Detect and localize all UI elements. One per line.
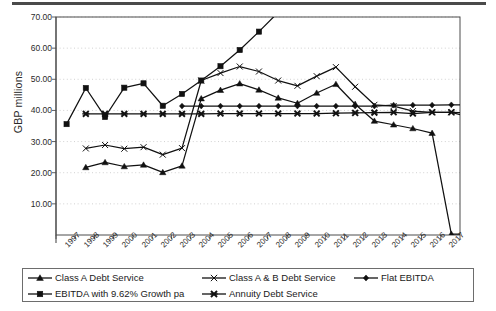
- x-axis-tick-label: 1999: [101, 230, 120, 249]
- legend-item-label: Annuity Debt Service: [229, 287, 318, 301]
- marker-square: [37, 291, 42, 296]
- legend-item[interactable]: Class A & B Debt Service: [201, 270, 336, 286]
- chart-legend: Class A Debt ServiceClass A & B Debt Ser…: [22, 268, 474, 302]
- legend-item-label: Class A Debt Service: [55, 271, 144, 285]
- legend-marker-diamond: [353, 271, 379, 285]
- legend-marker-square: [27, 287, 53, 301]
- x-axis-tick-label: 2008: [274, 230, 293, 249]
- marker-diamond: [363, 275, 368, 281]
- x-axis-tick-label: 2005: [216, 230, 235, 249]
- x-axis-tick-label: 2002: [159, 230, 178, 249]
- x-axis-tick-label: 2007: [255, 230, 274, 249]
- legend-item-label: Flat EBITDA: [381, 271, 434, 285]
- x-axis-tick-label: 2006: [236, 230, 255, 249]
- x-axis-tick-label: 1998: [82, 230, 101, 249]
- legend-item[interactable]: Class A Debt Service: [27, 270, 144, 286]
- legend-item[interactable]: EBITDA with 9.62% Growth pa: [27, 286, 184, 302]
- x-axis-tick-label: 2012: [351, 230, 370, 249]
- x-axis-tick-label: 2000: [120, 230, 139, 249]
- x-axis-tick-label: 2016: [428, 230, 447, 249]
- x-axis-tick-label: 2011: [332, 231, 351, 250]
- legend-item-label: EBITDA with 9.62% Growth pa: [55, 287, 184, 301]
- x-axis-tick-label: 2009: [293, 230, 312, 249]
- x-axis-tick-label: 2004: [197, 230, 216, 249]
- legend-item-label: Class A & B Debt Service: [229, 271, 336, 285]
- x-axis-tick-label: 1997: [63, 230, 82, 249]
- legend-marker-triangle: [27, 271, 53, 285]
- legend-marker-x-bold: [201, 287, 227, 301]
- legend-item[interactable]: Annuity Debt Service: [201, 286, 318, 302]
- x-axis-tick-labels: 1997199819992000200120022003200420052006…: [0, 0, 496, 311]
- chart-container: GBP millions 10.0020.0030.0040.0050.0060…: [0, 0, 496, 311]
- legend-marker-x-thin: [201, 271, 227, 285]
- x-axis-tick-label: 2014: [390, 230, 409, 249]
- x-axis-tick-label: 2017: [447, 230, 466, 249]
- x-axis-tick-label: 2015: [409, 230, 428, 249]
- x-axis-tick-label: 2010: [313, 230, 332, 249]
- x-axis-tick-label: 2001: [140, 230, 159, 249]
- legend-item[interactable]: Flat EBITDA: [353, 270, 434, 286]
- x-axis-tick-label: 2003: [178, 230, 197, 249]
- x-axis-tick-label: 2013: [370, 230, 389, 249]
